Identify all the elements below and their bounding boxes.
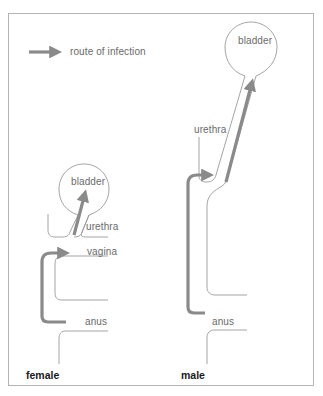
male-bladder-outline <box>225 22 277 76</box>
male-anus-label: anus <box>212 316 234 327</box>
female-anus-label: anus <box>85 316 107 327</box>
female-urethra-label: urethra <box>86 221 118 232</box>
male-bladder-label: bladder <box>238 35 272 46</box>
male-route-arrows <box>188 86 251 313</box>
female-anus-wall <box>59 331 108 364</box>
anatomy-diagram <box>0 0 323 396</box>
female-title: female <box>26 369 59 381</box>
male-anus-wall <box>207 330 247 364</box>
female-vagina-label: vagina <box>87 246 117 257</box>
female-vagina-lower-wall <box>55 256 108 300</box>
male-urethra-label: urethra <box>194 124 226 135</box>
female-bladder-label: bladder <box>71 176 105 187</box>
male-anatomy <box>199 22 277 364</box>
legend-label: route of infection <box>70 46 146 57</box>
female-anatomy <box>48 164 109 364</box>
male-urethra-right-wall <box>207 76 256 295</box>
male-title: male <box>181 369 205 381</box>
